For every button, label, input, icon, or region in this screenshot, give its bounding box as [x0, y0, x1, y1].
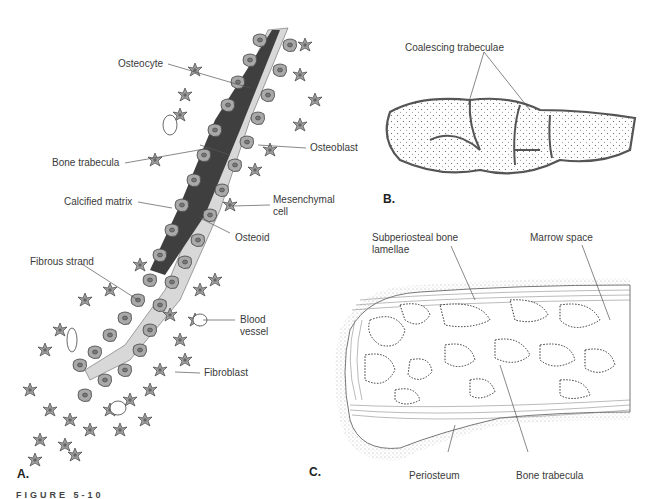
label-mesenchymal-line1: Mesenchymal: [273, 194, 335, 206]
label-osteoblast: Osteoblast: [310, 142, 358, 154]
label-marrow-space: Marrow space: [530, 232, 593, 244]
label-mesenchymal-line2: cell: [273, 206, 335, 218]
label-coalescing-trabeculae: Coalescing trabeculae: [405, 42, 504, 54]
label-subperiosteal-line2: lamellae: [372, 244, 458, 256]
panel-a-illustration: [23, 28, 322, 466]
label-osteocyte: Osteocyte: [118, 58, 163, 70]
label-bone-trabecula-a: Bone trabecula: [52, 157, 119, 169]
label-blood-vessel: Blood vessel: [240, 314, 268, 338]
label-mesenchymal-cell: Mesenchymal cell: [273, 194, 335, 218]
panel-b-illustration: [387, 52, 635, 173]
illustration-canvas: [0, 0, 662, 499]
panel-c-illustration: [335, 245, 630, 461]
label-subperiosteal-bone-lamellae: Subperiosteal bone lamellae: [372, 232, 458, 256]
panel-label-b: B.: [383, 192, 395, 206]
panel-label-a: A.: [17, 467, 29, 481]
label-osteoid: Osteoid: [235, 232, 269, 244]
label-calcified-matrix: Calcified matrix: [64, 196, 132, 208]
label-bone-trabecula-c: Bone trabecula: [516, 470, 583, 482]
figure-caption: FIGURE 5-10: [16, 490, 104, 499]
panel-label-c: C.: [309, 465, 321, 479]
label-periosteum: Periosteum: [409, 470, 460, 482]
label-fibrous-strand: Fibrous strand: [30, 256, 94, 268]
label-fibroblast: Fibroblast: [204, 367, 248, 379]
label-subperiosteal-line1: Subperiosteal bone: [372, 232, 458, 244]
label-blood-vessel-line1: Blood: [240, 314, 268, 326]
label-blood-vessel-line2: vessel: [240, 326, 268, 338]
